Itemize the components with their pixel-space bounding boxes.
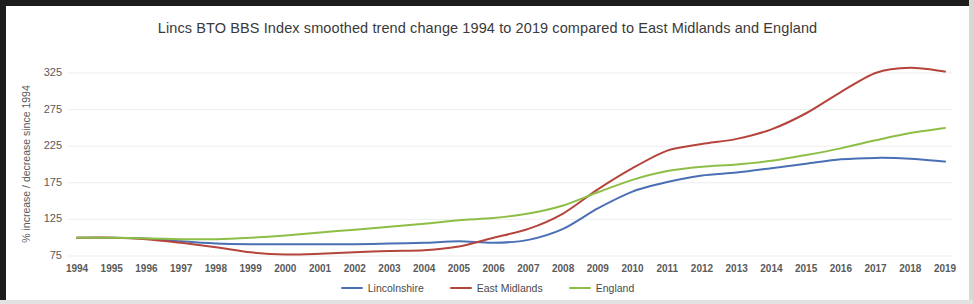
legend-item[interactable]: Lincolnshire: [341, 282, 424, 294]
plot-area: [6, 6, 969, 300]
legend-item-label: England: [596, 282, 635, 294]
scan-border-top: [0, 0, 973, 6]
legend-line-swatch: [569, 287, 591, 290]
series-line: [77, 158, 945, 244]
legend-line-swatch: [341, 287, 363, 290]
chart-screenshot: Lincs BTO BBS Index smoothed trend chang…: [0, 0, 973, 304]
legend-item-label: Lincolnshire: [368, 282, 424, 294]
legend-item[interactable]: England: [569, 282, 635, 294]
legend-item[interactable]: East Midlands: [450, 282, 543, 294]
legend-line-swatch: [450, 287, 472, 290]
series-line: [77, 128, 945, 239]
chart-card: Lincs BTO BBS Index smoothed trend chang…: [6, 6, 969, 300]
legend-item-label: East Midlands: [477, 282, 543, 294]
series-line: [77, 68, 945, 255]
scan-border-left: [0, 0, 6, 304]
chart-legend: LincolnshireEast MidlandsEngland: [6, 282, 969, 294]
scan-border-bottom: [0, 300, 973, 304]
scan-border-right: [969, 0, 973, 304]
